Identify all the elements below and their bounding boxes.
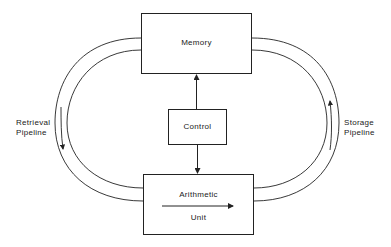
control-label: Control bbox=[168, 122, 227, 131]
storage-label-line1: Storage bbox=[344, 118, 375, 128]
memory-label: Memory bbox=[141, 38, 252, 47]
retrieval-label-line2: Pipeline bbox=[16, 128, 50, 138]
storage-direction-arrow bbox=[330, 101, 332, 150]
retrieval-pipeline-outer bbox=[55, 38, 143, 201]
arithmetic-label-bottom: Unit bbox=[143, 213, 254, 222]
retrieval-label-line1: Retrieval bbox=[16, 118, 50, 128]
arithmetic-box bbox=[144, 175, 254, 235]
retrieval-pipeline-label: Retrieval Pipeline bbox=[16, 118, 50, 138]
storage-pipeline-inner bbox=[252, 50, 327, 188]
arithmetic-label-top: Arithmetic bbox=[143, 190, 254, 199]
retrieval-pipeline-inner bbox=[67, 50, 143, 188]
retrieval-direction-arrow bbox=[61, 107, 63, 149]
storage-pipeline-label: Storage Pipeline bbox=[344, 118, 375, 138]
storage-label-line2: Pipeline bbox=[344, 128, 375, 138]
